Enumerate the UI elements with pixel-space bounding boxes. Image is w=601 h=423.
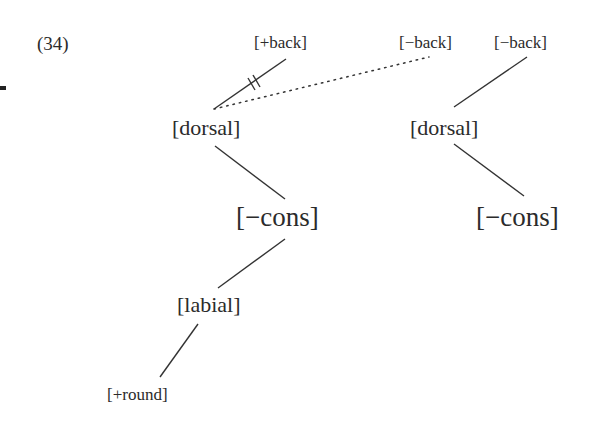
line-labial-round (160, 324, 198, 377)
label-minus-back-2: [−back] (494, 34, 547, 51)
line-dorsal-cons-left (215, 146, 285, 199)
line-spread-minus-back (214, 57, 429, 109)
label-plus-round: [+round] (107, 386, 168, 403)
label-dorsal-right: [dorsal] (410, 117, 478, 139)
label-cons-right: [−cons] (476, 204, 559, 231)
line-minus-back-dorsal-right (454, 57, 527, 107)
label-plus-back: [+back] (254, 34, 307, 51)
label-minus-back-1: [−back] (399, 34, 452, 51)
line-plus-back-dorsal (214, 59, 286, 109)
line-cons-labial (218, 239, 285, 288)
label-cons-left: [−cons] (236, 204, 319, 231)
label-labial: [labial] (177, 294, 241, 316)
label-dorsal-left: [dorsal] (172, 117, 240, 139)
line-dorsal-cons-right (454, 144, 524, 196)
example-number: (34) (37, 34, 69, 53)
